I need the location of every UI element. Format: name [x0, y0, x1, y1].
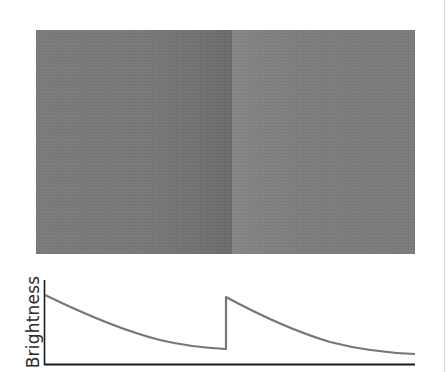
stimulus-right-panel [232, 30, 415, 254]
y-axis-label: Brightness [23, 276, 43, 369]
cornsweet-stimulus [36, 30, 415, 254]
brightness-graph [0, 270, 446, 372]
stimulus-left-panel [36, 30, 232, 254]
brightness-curve [45, 295, 415, 354]
